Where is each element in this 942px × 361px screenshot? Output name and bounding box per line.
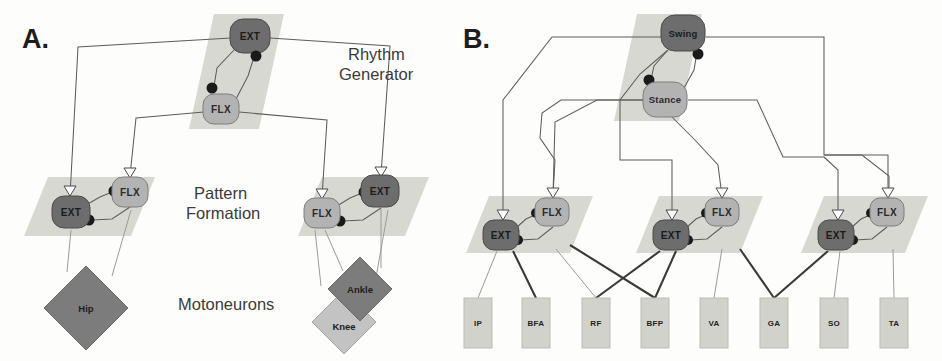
pf2-ext-label: EXT — [661, 230, 682, 241]
figure-canvas: EXT FLX EXT FLX — [0, 0, 942, 361]
pf-left-ext-label: EXT — [61, 207, 82, 218]
pf-right-flx-label: FLX — [312, 208, 332, 219]
pattern-formation-label-2: Formation — [186, 204, 260, 222]
conn-pf-right-flx-to-knee — [315, 230, 321, 286]
muscle-bfp-label: BFP — [647, 319, 664, 328]
pf-right-ext-label: EXT — [370, 186, 391, 197]
conn-pf1-ext-to-ip — [478, 251, 497, 298]
conn-pf2-ext-to-bfp — [655, 251, 676, 298]
cpg-figure: EXT FLX EXT FLX — [0, 0, 942, 361]
conn-stance-down-to-pf2-ext — [672, 117, 722, 196]
panel-a-letter: A. — [22, 24, 49, 54]
motoneuron-hip-label: Hip — [78, 303, 94, 314]
conn-pf3-ext-to-ga — [774, 251, 828, 298]
pf2-flx-label: FLX — [712, 207, 732, 218]
muscle-ip-label: IP — [474, 319, 483, 328]
motoneuron-knee-label: Knee — [332, 321, 355, 332]
panel-a: EXT FLX EXT FLX — [22, 14, 429, 354]
pf3-ext-label: EXT — [826, 230, 847, 241]
inhibitory-dot-rg-ext — [251, 51, 262, 62]
rg-stance-label: Stance — [649, 94, 681, 105]
conn-swing-to-pf3-flx — [706, 37, 888, 196]
pf1-ext-label: EXT — [491, 230, 512, 241]
panel-b: Swing Stance EXT FLX E — [463, 14, 928, 348]
panel-b-letter: B. — [463, 24, 490, 54]
conn-pf3-flx-to-ta — [893, 249, 894, 298]
conn-pf2-flx-to-va — [714, 249, 722, 298]
muscle-va-label: VA — [708, 319, 719, 328]
conn-swing-right-branch — [824, 155, 889, 196]
conn-pf1-ext-to-bfa — [513, 251, 536, 298]
rg-ext-label: EXT — [240, 31, 261, 42]
pf3-flx-label: FLX — [877, 207, 897, 218]
rhythm-generator-label: Rhythm — [348, 45, 405, 63]
rg-flx-label: FLX — [211, 104, 231, 115]
conn-pf-right-flx-to-ankle — [325, 230, 343, 271]
conn-pf3-ext-to-so — [834, 251, 840, 298]
conn-pf2-ext-to-rf — [596, 251, 660, 298]
motoneuron-ankle-label: Ankle — [347, 284, 373, 295]
conn-pf2-flx-to-ga — [740, 249, 774, 298]
rhythm-generator-label-2: Generator — [339, 65, 414, 83]
muscle-rf-label: RF — [590, 319, 601, 328]
pf1-flx-label: FLX — [542, 207, 562, 218]
conn-pf-left-ext-to-hip — [67, 230, 71, 272]
pf-left-flx-label: FLX — [120, 187, 140, 198]
pattern-formation-label: Pattern — [194, 184, 247, 202]
muscle-so-label: SO — [828, 319, 840, 328]
conn-stance-to-pf2-flx — [688, 100, 824, 157]
muscle-boxes: IP BFA RF BFP VA GA SO TA — [464, 298, 908, 348]
rg-swing-label: Swing — [669, 28, 698, 39]
muscle-ta-label: TA — [889, 319, 900, 328]
muscle-bfa-label: BFA — [528, 319, 545, 328]
inhibitory-dot-rg-flx — [207, 83, 218, 94]
motoneurons-label: Motoneurons — [178, 295, 274, 313]
muscle-ga-label: GA — [768, 319, 781, 328]
